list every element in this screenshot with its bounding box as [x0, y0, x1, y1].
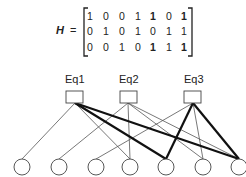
- eq1-label: Eq1: [65, 73, 85, 85]
- eq2-label: Eq2: [119, 73, 139, 85]
- matrix-label: H: [56, 24, 64, 36]
- check-node-eq3: [184, 91, 201, 103]
- equals-sign: =: [70, 24, 76, 36]
- check-node-eq2: [120, 91, 137, 103]
- check-node-eq1: [66, 91, 83, 103]
- eq3-label: Eq3: [184, 73, 204, 85]
